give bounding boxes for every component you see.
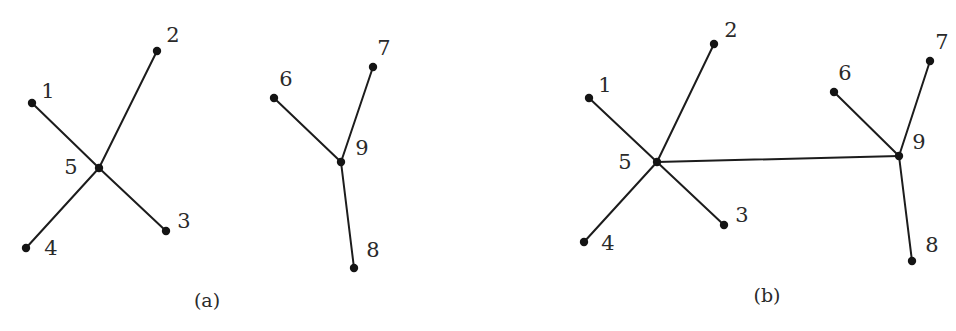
panel-b-graph: 123456789(b): [580, 18, 949, 306]
node-label-2: 2: [724, 18, 737, 42]
node-5: [95, 164, 103, 172]
edge-8-9: [341, 162, 354, 268]
node-label-3: 3: [177, 209, 190, 233]
node-1: [28, 99, 36, 107]
edge-4-5: [26, 168, 99, 248]
edge-3-5: [657, 162, 724, 225]
panel-caption-b: (b): [754, 284, 781, 306]
edge-2-5: [99, 51, 157, 168]
edge-2-5: [657, 44, 714, 162]
node-label-5: 5: [618, 150, 631, 174]
node-label-7: 7: [935, 30, 948, 54]
node-label-4: 4: [44, 236, 57, 260]
node-label-2: 2: [166, 23, 179, 47]
edge-6-9: [834, 92, 899, 156]
node-2: [153, 47, 161, 55]
edge-3-5: [99, 168, 166, 231]
node-label-1: 1: [598, 73, 611, 97]
node-8: [908, 257, 916, 265]
node-label-4: 4: [601, 231, 614, 255]
edge-5-9: [657, 156, 899, 162]
node-2: [710, 40, 718, 48]
node-7: [369, 63, 377, 71]
node-4: [580, 238, 588, 246]
node-label-8: 8: [366, 238, 379, 262]
node-6: [830, 88, 838, 96]
node-9: [895, 152, 903, 160]
node-7: [926, 57, 934, 65]
node-label-1: 1: [41, 79, 54, 103]
node-3: [162, 227, 170, 235]
node-label-9: 9: [355, 136, 368, 160]
edge-4-5: [584, 162, 657, 242]
node-8: [350, 264, 358, 272]
panel-caption-a: (a): [194, 289, 220, 311]
graph-diagram: 123456789(a) 123456789(b): [0, 0, 956, 331]
node-label-3: 3: [735, 203, 748, 227]
node-6: [270, 94, 278, 102]
node-label-5: 5: [64, 155, 77, 179]
node-label-7: 7: [377, 36, 390, 60]
node-3: [720, 221, 728, 229]
node-9: [337, 158, 345, 166]
edge-6-9: [274, 98, 341, 162]
panel-a-graph: 123456789(a): [22, 23, 391, 311]
node-5: [653, 158, 661, 166]
node-label-9: 9: [912, 130, 925, 154]
node-4: [22, 244, 30, 252]
node-label-6: 6: [279, 67, 292, 91]
edge-8-9: [899, 156, 912, 261]
node-label-8: 8: [925, 233, 938, 257]
node-1: [585, 94, 593, 102]
node-label-6: 6: [838, 61, 851, 85]
